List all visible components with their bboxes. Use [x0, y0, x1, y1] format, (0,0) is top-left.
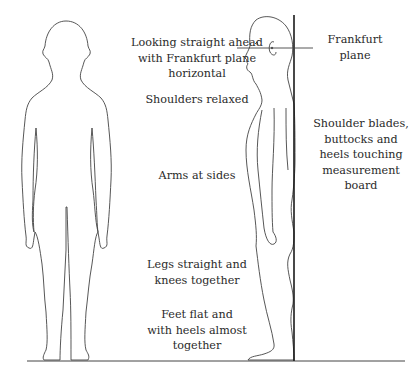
- label-board-contact: Shoulder blades, buttocks and heels touc…: [305, 116, 417, 194]
- label-feet: Feet flat and with heels almost together: [128, 307, 266, 354]
- label-arms: Arms at sides: [128, 168, 266, 184]
- label-frankfurt-instruction: Looking straight ahead with Frankfurt pl…: [128, 35, 266, 82]
- label-shoulders: Shoulders relaxed: [128, 92, 266, 108]
- label-frankfurt-plane: Frankfurt plane: [315, 32, 395, 63]
- front-view-figure: [22, 21, 112, 360]
- label-legs: Legs straight and knees together: [128, 257, 266, 288]
- posture-diagram: Looking straight ahead with Frankfurt pl…: [0, 0, 417, 378]
